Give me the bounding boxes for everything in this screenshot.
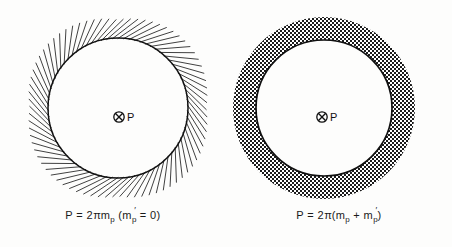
right-caption-lead: P = 2 — [296, 209, 324, 221]
left-caption-prime-group: ′p — [132, 209, 136, 224]
radial-hatch-marks — [29, 19, 207, 197]
left-center-label: P — [127, 111, 134, 123]
left-caption: P = 2πmp (m′p = 0) — [0, 209, 226, 224]
left-caption-lead: P = 2 — [65, 209, 93, 221]
figure-left: P P = 2πmp (m′p = 0) — [0, 0, 226, 247]
right-figure-drawing: P — [226, 0, 452, 210]
left-boundary-circle — [48, 38, 188, 178]
right-caption-mass2-sub: p — [373, 215, 377, 224]
right-caption-prime-group: ′p — [373, 209, 377, 224]
right-caption-pi: π — [324, 209, 332, 221]
left-caption-paren-close: = 0) — [136, 209, 160, 221]
left-caption-paren-sub: p — [132, 215, 136, 224]
left-caption-mass-sub: p — [110, 215, 114, 224]
figure-page: P P = 2πmp (m′p = 0) — [0, 0, 452, 247]
crosshatch-ring — [226, 0, 452, 210]
right-caption-paren-close: ) — [378, 209, 382, 221]
left-caption-mass: m — [101, 209, 111, 221]
right-caption-plus: + m — [350, 209, 373, 221]
left-caption-prime: ′ — [134, 205, 136, 215]
circle-x-icon — [114, 112, 124, 122]
figure-right: P P = 2π(mp + m′p) — [226, 0, 452, 247]
right-caption-paren-open: (m — [332, 209, 346, 221]
right-caption: P = 2π(mp + m′p) — [226, 209, 452, 224]
left-caption-paren-open: (m — [118, 209, 132, 221]
right-caption-prime: ′ — [375, 205, 377, 215]
left-caption-pi: π — [93, 209, 101, 221]
right-center-label: P — [330, 111, 337, 123]
left-figure-drawing: P — [0, 0, 226, 210]
